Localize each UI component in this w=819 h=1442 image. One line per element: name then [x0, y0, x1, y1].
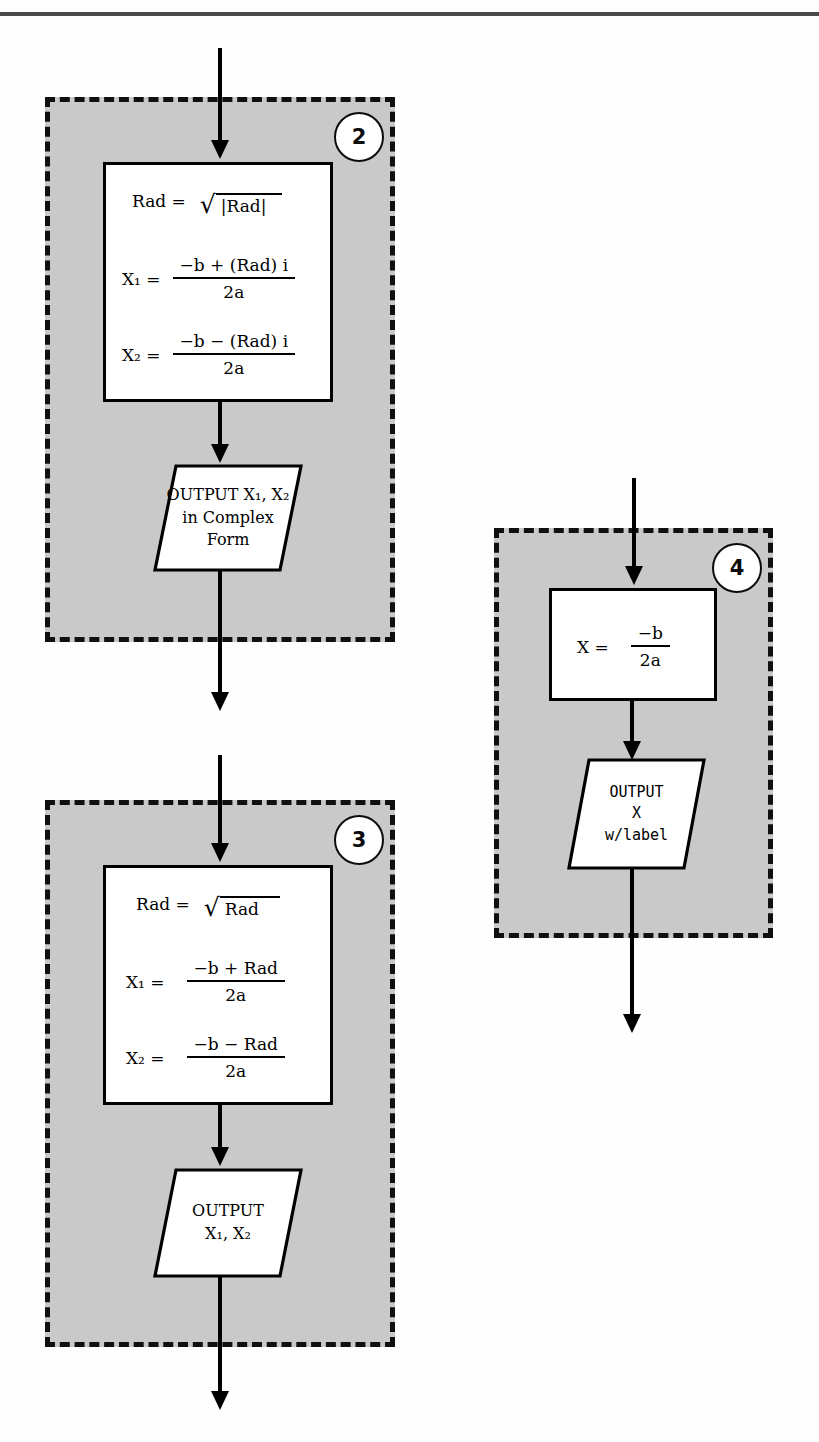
- radical-sign-icon: √: [200, 191, 216, 216]
- block-3-equation-2-fraction: −b − Rad 2a: [187, 1034, 285, 1081]
- block-3-equation-1-numerator: −b + Rad: [187, 958, 285, 982]
- block-3-process-box: Rad = √ Rad X₁ = −b + Rad 2a X₂ = −b − R…: [103, 865, 333, 1105]
- block-4-output-shape: OUTPUT X w/label: [566, 757, 707, 871]
- connector-entry-block4: [632, 478, 636, 566]
- block-4-equation: X = −b 2a: [577, 623, 670, 670]
- block-3-equation-2-denominator: 2a: [225, 1058, 246, 1081]
- block-4-equation-numerator: −b: [631, 623, 670, 647]
- block-4-output-text: OUTPUT X w/label: [566, 757, 707, 871]
- block-2-output-line-3: Form: [207, 529, 250, 552]
- block-3-radical-arg: Rad: [220, 899, 259, 919]
- connector-block2-internal: [218, 402, 222, 444]
- block-2-process-box: Rad = √ |Rad| X₁ = −b + (Rad) i 2a X₂ = …: [103, 162, 333, 402]
- block-3-equation-1: X₁ = −b + Rad 2a: [126, 958, 285, 1005]
- block-2-equation-2: X₂ = −b − (Rad) i 2a: [122, 331, 295, 378]
- block-2-equation-1-numerator: −b + (Rad) i: [173, 255, 296, 279]
- arrowhead-block4-exit: [623, 1014, 641, 1033]
- arrowhead-entry-block3: [211, 843, 229, 862]
- arrowhead-entry-block2: [211, 140, 229, 159]
- connector-block3-internal: [218, 1105, 222, 1147]
- block-3-output-line-1: OUTPUT: [192, 1200, 264, 1223]
- block-3-equation-1-fraction: −b + Rad 2a: [187, 958, 285, 1005]
- block-2-equation-2-lhs: X₂ =: [122, 345, 161, 365]
- block-3-equation-1-lhs: X₁ =: [126, 972, 165, 992]
- block-2-output-text: OUTPUT X₁, X₂ in Complex Form: [152, 463, 304, 573]
- block-2-equation-1: X₁ = −b + (Rad) i 2a: [122, 255, 295, 302]
- block-2-badge: 2: [334, 112, 384, 162]
- block-4-output-line-1: OUTPUT: [609, 782, 663, 803]
- block-2-equation-2-numerator: −b − (Rad) i: [173, 331, 296, 355]
- block-2-equation-2-fraction: −b − (Rad) i 2a: [173, 331, 296, 378]
- block-4-process-box: X = −b 2a: [549, 588, 717, 701]
- block-2-radical-lhs: Rad =: [132, 191, 186, 211]
- block-4-output-line-2: X: [632, 803, 641, 824]
- arrowhead-entry-block4: [625, 566, 643, 585]
- connector-entry-block2: [218, 48, 222, 140]
- connector-entry-block3: [218, 755, 222, 843]
- block-4-equation-lhs: X =: [577, 637, 609, 657]
- block-3-output-line-2: X₁, X₂: [205, 1223, 251, 1246]
- block-3-badge: 3: [334, 815, 384, 865]
- block-2-output-line-1: OUTPUT X₁, X₂: [167, 484, 290, 507]
- connector-block4-internal: [630, 701, 634, 741]
- arrowhead-block3-internal: [211, 1147, 229, 1166]
- block-4-badge: 4: [712, 543, 762, 593]
- arrowhead-block2-internal: [211, 444, 229, 463]
- connector-block4-exit: [630, 866, 634, 1014]
- block-2-equation-1-fraction: −b + (Rad) i 2a: [173, 255, 296, 302]
- block-3-equation-1-denominator: 2a: [225, 982, 246, 1005]
- arrowhead-block3-exit: [211, 1391, 229, 1410]
- top-divider-rule: [0, 12, 819, 16]
- block-3-radical-row: Rad = √ Rad: [136, 894, 259, 919]
- block-4-equation-denominator: 2a: [640, 647, 661, 670]
- connector-block3-exit: [218, 1274, 222, 1391]
- block-2-output-shape: OUTPUT X₁, X₂ in Complex Form: [152, 463, 304, 573]
- flowchart-page: 2 Rad = √ |Rad| X₁ = −b + (Rad) i 2a X₂ …: [0, 0, 819, 1442]
- block-2-radical-row: Rad = √ |Rad|: [132, 191, 266, 216]
- block-3-output-shape: OUTPUT X₁, X₂: [152, 1167, 304, 1279]
- connector-block2-exit: [218, 568, 222, 692]
- block-2-equation-2-denominator: 2a: [223, 355, 244, 378]
- block-2-equation-1-denominator: 2a: [223, 279, 244, 302]
- radical-sign-icon: √: [204, 894, 220, 919]
- block-3-radical-lhs: Rad =: [136, 894, 190, 914]
- block-2-output-line-2: in Complex: [182, 507, 273, 530]
- block-3-equation-2-lhs: X₂ =: [126, 1048, 165, 1068]
- block-4-equation-fraction: −b 2a: [631, 623, 670, 670]
- block-3-equation-2-numerator: −b − Rad: [187, 1034, 285, 1058]
- block-3-output-text: OUTPUT X₁, X₂: [152, 1167, 304, 1279]
- block-3-equation-2: X₂ = −b − Rad 2a: [126, 1034, 285, 1081]
- arrowhead-block2-exit: [211, 692, 229, 711]
- block-2-radical-arg: |Rad|: [216, 196, 267, 216]
- block-4-output-line-3: w/label: [605, 825, 668, 846]
- block-2-equation-1-lhs: X₁ =: [122, 269, 161, 289]
